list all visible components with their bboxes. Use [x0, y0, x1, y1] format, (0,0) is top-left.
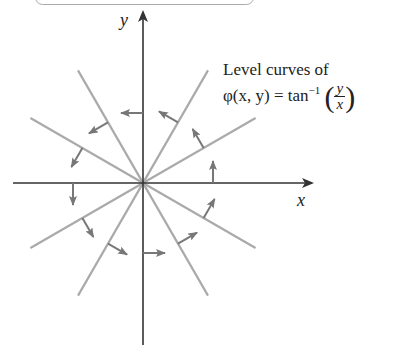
y-axis-label: y	[120, 10, 128, 31]
level-curves-diagram	[0, 0, 397, 355]
close-paren: )	[345, 80, 355, 113]
fraction-numerator: y	[334, 81, 345, 97]
caption: Level curves of φ(x, y) = tan−1 (yx)	[223, 60, 355, 112]
gradient-arrow-icon	[89, 122, 108, 133]
caption-line1: Level curves of	[223, 60, 355, 80]
gradient-arrow-icon	[159, 111, 178, 122]
caption-formula: φ(x, y) = tan−1 (yx)	[223, 80, 355, 112]
gradient-arrow-icon	[178, 233, 197, 244]
fraction: yx	[334, 81, 345, 112]
gradient-arrow-icon	[193, 129, 204, 148]
fraction-denominator: x	[334, 97, 345, 112]
gradient-arrow-icon	[82, 218, 93, 237]
open-paren: (	[324, 80, 334, 113]
x-axis-label: x	[297, 190, 305, 211]
gradient-arrow-icon	[108, 244, 127, 255]
formula-func: φ(x, y) = tan	[223, 86, 309, 105]
gradient-arrow-icon	[204, 199, 215, 218]
formula-exponent: −1	[309, 84, 321, 96]
gradient-arrow-icon	[71, 148, 82, 167]
